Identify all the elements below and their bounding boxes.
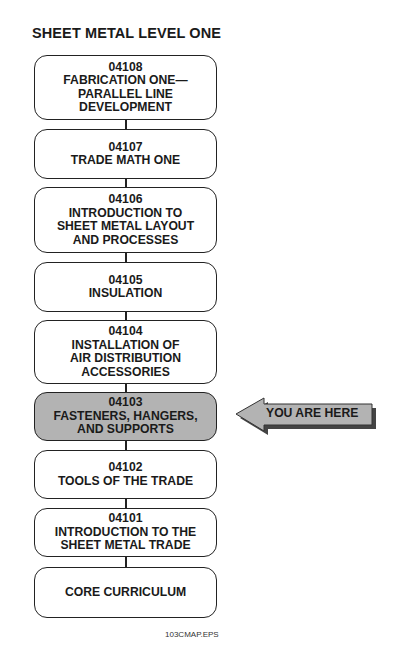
module-04107: 04107 TRADE MATH ONE xyxy=(34,129,217,179)
module-core-curriculum: CORE CURRICULUM xyxy=(34,567,217,618)
module-04104: 04104 INSTALLATION OF AIR DISTRIBUTION A… xyxy=(34,320,217,384)
module-title-line: AIR DISTRIBUTION xyxy=(70,352,181,366)
connector xyxy=(125,383,127,392)
module-title-line: INSTALLATION OF xyxy=(72,339,180,353)
you-are-here-label: YOU ARE HERE xyxy=(266,406,358,420)
module-code: 04101 xyxy=(109,512,143,526)
module-code: 04103 xyxy=(109,396,143,410)
module-title-line: INTRODUCTION TO xyxy=(69,207,183,221)
module-04101: 04101 INTRODUCTION TO THE SHEET METAL TR… xyxy=(34,508,217,557)
module-title-line: TOOLS OF THE TRADE xyxy=(58,475,193,489)
module-04103-current: 04103 FASTENERS, HANGERS, AND SUPPORTS xyxy=(34,392,217,441)
module-code: 04106 xyxy=(109,193,143,207)
module-title-line: ACCESSORIES xyxy=(81,366,170,380)
module-title-line: DEVELOPMENT xyxy=(79,101,172,115)
module-title-line: PARALLEL LINE xyxy=(78,88,173,102)
module-title-line: FABRICATION ONE— xyxy=(63,74,187,88)
module-title-line: INSULATION xyxy=(89,287,163,301)
module-title-line: AND PROCESSES xyxy=(73,234,179,248)
module-code: 04107 xyxy=(109,141,143,155)
module-code: 04104 xyxy=(109,325,143,339)
module-04108: 04108 FABRICATION ONE— PARALLEL LINE DEV… xyxy=(34,55,217,120)
module-04105: 04105 INSULATION xyxy=(34,262,217,312)
connector xyxy=(125,440,127,450)
connector xyxy=(125,119,127,129)
connector xyxy=(125,311,127,320)
module-title-line: CORE CURRICULUM xyxy=(65,586,186,600)
connector xyxy=(125,178,127,187)
connector xyxy=(125,252,127,262)
module-04106: 04106 INTRODUCTION TO SHEET METAL LAYOUT… xyxy=(34,187,217,253)
module-title-line: SHEET METAL LAYOUT xyxy=(57,220,194,234)
connector xyxy=(125,498,127,508)
module-title-line: INTRODUCTION TO THE xyxy=(55,526,196,540)
connector xyxy=(125,556,127,567)
module-title-line: SHEET METAL TRADE xyxy=(60,539,190,553)
figure-caption: 103CMAP.EPS xyxy=(165,630,219,639)
diagram-title: SHEET METAL LEVEL ONE xyxy=(32,25,221,41)
module-04102: 04102 TOOLS OF THE TRADE xyxy=(34,450,217,499)
module-code: 04102 xyxy=(109,461,143,475)
module-title-line: AND SUPPORTS xyxy=(77,423,174,437)
module-title-line: FASTENERS, HANGERS, xyxy=(53,410,197,424)
module-code: 04108 xyxy=(109,61,143,75)
module-code: 04105 xyxy=(109,274,143,288)
module-title-line: TRADE MATH ONE xyxy=(71,154,180,168)
